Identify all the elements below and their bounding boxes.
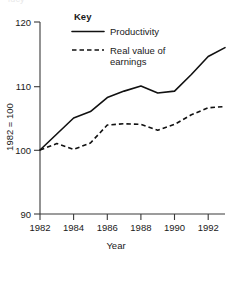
legend: Key Productivity Real value of earnings — [72, 11, 166, 67]
x-tick-label-1986: 1986 — [97, 222, 118, 233]
legend-title: Key — [74, 11, 92, 22]
legend-label-real-value-of-earnings: Real value of — [110, 45, 166, 56]
y-tick-label-100: 100 — [15, 145, 31, 156]
y-tick-label-110: 110 — [16, 81, 31, 92]
x-tick-label-1988: 1988 — [130, 222, 151, 233]
chart-container: lucy 120 110 100 90 1982 1984 1986 1988 … — [0, 0, 231, 286]
y-tick-label-120: 120 — [15, 17, 31, 28]
y-tick-label-90: 90 — [20, 209, 31, 220]
legend-label-real-value-of-earnings-line2: earnings — [110, 56, 147, 67]
x-tick-label-1992: 1992 — [198, 222, 219, 233]
x-axis-title: Year — [106, 240, 125, 251]
line-chart-plot: 120 110 100 90 1982 1984 1986 1988 1990 … — [0, 0, 231, 286]
legend-label-productivity: Productivity — [110, 26, 159, 37]
y-axis-title: 1982 = 100 — [4, 103, 15, 151]
x-tick-label-1990: 1990 — [164, 222, 185, 233]
x-tick-label-1984: 1984 — [63, 222, 84, 233]
series-line-real-value-of-earnings — [40, 106, 225, 150]
x-tick-label-1982: 1982 — [29, 222, 50, 233]
